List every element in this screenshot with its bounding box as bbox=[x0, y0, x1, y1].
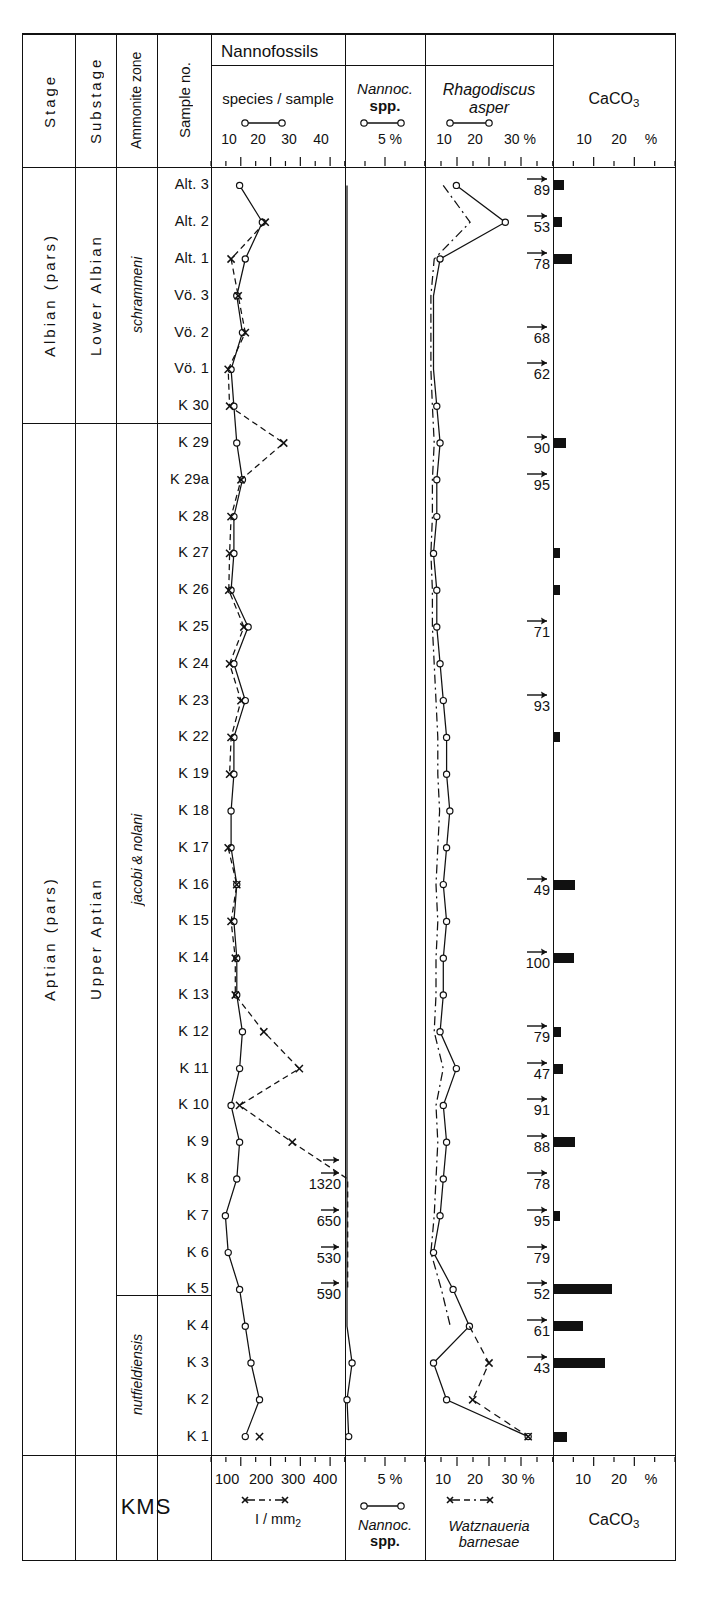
footer-caco3-label: CaCO3 bbox=[553, 1511, 675, 1530]
footer-watznaueria-label: Watznaueriabarnesae bbox=[425, 1518, 553, 1550]
footer-nannoc-label: Nannoc. spp. bbox=[345, 1518, 425, 1550]
chart-frame: Stage Substage Ammonite zone Sample no. … bbox=[22, 33, 676, 1561]
footer-nannoc-line2: spp. bbox=[370, 1533, 400, 1549]
footer-x-markers bbox=[23, 34, 677, 1562]
footer-nannoc-tick-5pct: 5 % bbox=[367, 1471, 413, 1487]
footer-caco3-tick-20: 20 bbox=[607, 1471, 631, 1487]
footer-watz-tick-30pct: 30 % bbox=[497, 1471, 539, 1487]
footer-nannoc-line1: Nannoc. bbox=[358, 1517, 412, 1533]
footer-caco3-tick-10: 10 bbox=[571, 1471, 595, 1487]
footer-watz-tick-20: 20 bbox=[463, 1471, 487, 1487]
footer-watz-tick-10: 10 bbox=[431, 1471, 455, 1487]
figure-page: Stage Substage Ammonite zone Sample no. … bbox=[0, 0, 720, 1603]
footer-caco3-tick-pct: % bbox=[639, 1471, 663, 1487]
